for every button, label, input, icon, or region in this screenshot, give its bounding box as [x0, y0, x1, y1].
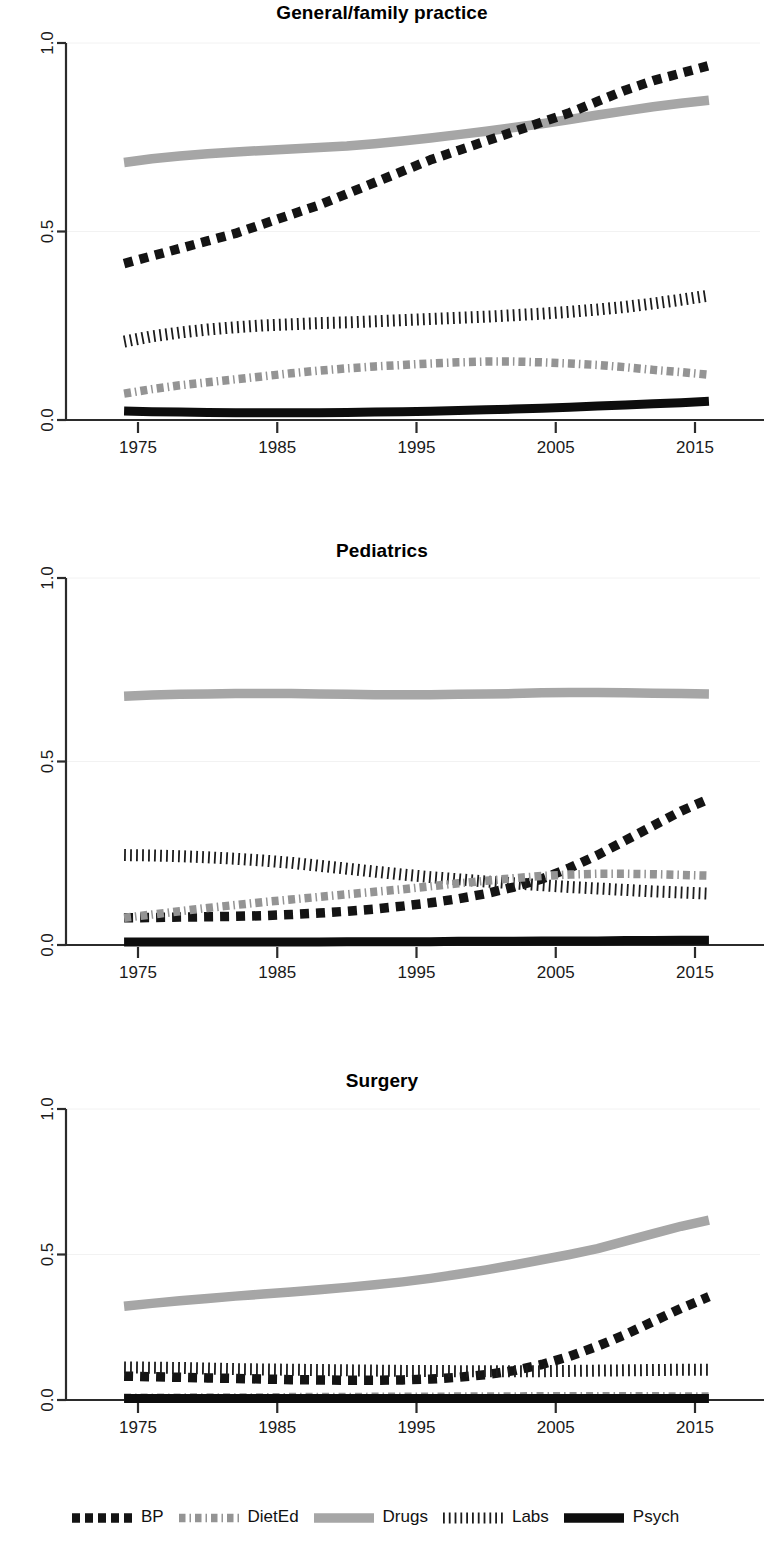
plot-area: 0.00.51.019751985199520052015	[0, 0, 764, 470]
legend-label-bp: BP	[141, 1507, 164, 1527]
x-tick-label: 2005	[537, 963, 575, 982]
series-line-labs	[124, 1367, 709, 1371]
y-tick-label: 0.5	[38, 1243, 57, 1267]
x-tick-label: 1995	[398, 1418, 436, 1437]
legend-item-bp: BP	[71, 1507, 178, 1527]
x-tick-label: 1995	[398, 963, 436, 982]
chart-legend: BP DietEd Drugs Labs Psych	[0, 1500, 764, 1534]
legend-swatch-labs-icon	[442, 1512, 504, 1523]
y-tick-label: 0.0	[38, 1388, 57, 1412]
x-tick-label: 1975	[119, 1418, 157, 1437]
series-line-dieted	[124, 874, 709, 918]
x-tick-label: 1975	[119, 963, 157, 982]
legend-swatch-drugs-icon	[313, 1512, 375, 1523]
series-line-drugs	[124, 100, 709, 162]
series-line-bp	[124, 1297, 709, 1381]
chart-svg-2: 0.00.51.019751985199520052015	[0, 1040, 764, 1440]
plot-area: 0.00.51.019751985199520052015	[0, 520, 764, 990]
y-tick-label: 1.0	[38, 566, 57, 590]
y-tick-label: 0.0	[38, 933, 57, 957]
x-tick-label: 1975	[119, 438, 157, 457]
y-tick-label: 1.0	[38, 31, 57, 55]
plot-area: 0.00.51.019751985199520052015	[0, 1040, 764, 1440]
x-tick-label: 1995	[398, 438, 436, 457]
legend-item-dieted: DietEd	[178, 1507, 313, 1527]
legend-label-labs: Labs	[512, 1507, 549, 1527]
series-line-bp	[124, 799, 709, 918]
x-tick-label: 2005	[537, 438, 575, 457]
legend-item-labs: Labs	[442, 1507, 563, 1527]
x-tick-label: 2015	[676, 1418, 714, 1437]
x-tick-label: 2015	[676, 963, 714, 982]
series-line-drugs	[124, 1220, 709, 1306]
x-tick-label: 1985	[258, 1418, 296, 1437]
x-tick-label: 2015	[676, 438, 714, 457]
x-tick-label: 1985	[258, 963, 296, 982]
panel-general-family-practice: General/family practice 0.00.51.01975198…	[0, 0, 764, 470]
panel-surgery: Surgery 0.00.51.019751985199520052015	[0, 1040, 764, 1440]
series-line-psych	[124, 940, 709, 942]
series-line-psych	[124, 401, 709, 413]
series-line-drugs	[124, 693, 709, 697]
chart-svg-0: 0.00.51.019751985199520052015	[0, 0, 764, 470]
chart-svg-1: 0.00.51.019751985199520052015	[0, 520, 764, 990]
y-tick-label: 0.0	[38, 408, 57, 432]
legend-label-drugs: Drugs	[383, 1507, 428, 1527]
legend-label-dieted: DietEd	[248, 1507, 299, 1527]
y-tick-label: 1.0	[38, 1097, 57, 1121]
series-line-labs	[124, 296, 709, 342]
legend-swatch-psych-icon	[563, 1512, 625, 1523]
legend-item-psych: Psych	[563, 1507, 693, 1527]
y-tick-label: 0.5	[38, 750, 57, 774]
panel-pediatrics: Pediatrics 0.00.51.019751985199520052015	[0, 520, 764, 990]
legend-item-drugs: Drugs	[313, 1507, 442, 1527]
x-tick-label: 2005	[537, 1418, 575, 1437]
series-line-bp	[124, 66, 709, 264]
legend-swatch-bp-icon	[71, 1512, 133, 1523]
legend-swatch-dieted-icon	[178, 1512, 240, 1523]
series-line-dieted	[124, 362, 709, 394]
x-tick-label: 1985	[258, 438, 296, 457]
y-tick-label: 0.5	[38, 220, 57, 244]
legend-label-psych: Psych	[633, 1507, 679, 1527]
